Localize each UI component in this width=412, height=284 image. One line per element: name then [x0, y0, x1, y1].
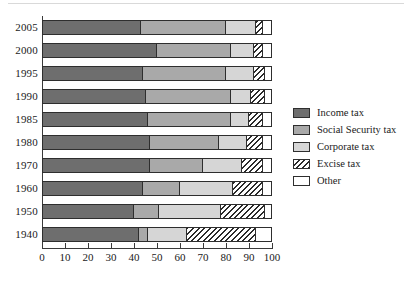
bar-segment-other	[265, 66, 272, 81]
bar-segment-excise-tax	[247, 135, 263, 150]
bar-segment-corporate-tax	[226, 20, 256, 35]
x-axis-tick	[203, 243, 204, 249]
bar-segment-income-tax	[42, 43, 157, 58]
bar-segment-corporate-tax	[231, 89, 252, 104]
bar-row	[42, 181, 272, 196]
bar-segment-other	[263, 135, 272, 150]
bar-segment-social-security-tax	[146, 89, 231, 104]
bar-segment-excise-tax	[256, 20, 263, 35]
bar-segment-income-tax	[42, 158, 150, 173]
bar-segment-income-tax	[42, 181, 143, 196]
bar-segment-other	[263, 43, 272, 58]
y-axis-tick-label: 1985	[2, 114, 38, 125]
bar-segment-income-tax	[42, 66, 143, 81]
bar-segment-excise-tax	[242, 158, 263, 173]
x-axis-tick	[111, 243, 112, 249]
y-axis-tick-label: 1950	[2, 206, 38, 217]
x-axis-tick	[65, 243, 66, 249]
x-axis-tick-label: 0	[39, 251, 45, 264]
y-axis-tick-label: 1960	[2, 183, 38, 194]
x-axis-tick	[226, 243, 227, 249]
bar-segment-corporate-tax	[180, 181, 233, 196]
bar-segment-social-security-tax	[150, 158, 203, 173]
bar-row	[42, 43, 272, 58]
legend-label: Excise tax	[317, 158, 360, 169]
bar-segment-corporate-tax	[219, 135, 247, 150]
chart-legend: Income taxSocial Security taxCorporate t…	[293, 104, 409, 189]
bar-segment-social-security-tax	[148, 112, 231, 127]
legend-label: Corporate tax	[317, 141, 374, 152]
x-axis-ticks	[42, 243, 272, 249]
legend-swatch-excise-tax	[293, 159, 310, 169]
y-axis-tick-label: 2005	[2, 22, 38, 33]
bar-segment-excise-tax	[221, 204, 265, 219]
x-axis-tick-label: 30	[106, 251, 117, 264]
y-axis-tick-labels: 2005200019951990198519801970196019501940	[0, 16, 38, 246]
bar-segment-other	[256, 227, 272, 242]
legend-label: Income tax	[317, 107, 364, 118]
bar-row	[42, 66, 272, 81]
bar-segment-social-security-tax	[157, 43, 231, 58]
bar-segment-social-security-tax	[141, 20, 226, 35]
bar-row	[42, 204, 272, 219]
bar-segment-social-security-tax	[139, 227, 148, 242]
legend-label: Other	[317, 175, 341, 186]
bar-segment-corporate-tax	[159, 204, 221, 219]
bar-segment-corporate-tax	[231, 112, 249, 127]
bar-segment-income-tax	[42, 20, 141, 35]
bar-row	[42, 135, 272, 150]
legend-swatch-income-tax	[293, 108, 310, 118]
bar-segment-excise-tax	[254, 66, 266, 81]
x-axis-tick-label: 70	[198, 251, 209, 264]
bar-segment-corporate-tax	[231, 43, 254, 58]
y-axis-tick-label: 2000	[2, 45, 38, 56]
bar-segment-other	[265, 204, 272, 219]
x-axis-tick	[249, 243, 250, 249]
bar-segment-income-tax	[42, 89, 146, 104]
x-axis-tick-label: 60	[175, 251, 186, 264]
legend-item: Income tax	[293, 104, 409, 121]
legend-swatch-social-security-tax	[293, 125, 310, 135]
bar-segment-excise-tax	[233, 181, 263, 196]
bar-row	[42, 20, 272, 35]
legend-swatch-other	[293, 176, 310, 186]
bar-segment-other	[263, 20, 272, 35]
x-axis-tick-label: 40	[129, 251, 140, 264]
x-axis-tick-label: 20	[83, 251, 94, 264]
x-axis-tick	[157, 243, 158, 249]
legend-label: Social Security tax	[317, 124, 396, 135]
x-axis-tick-label: 100	[264, 251, 281, 264]
bar-segment-corporate-tax	[148, 227, 187, 242]
bar-segment-corporate-tax	[226, 66, 254, 81]
bar-segment-excise-tax	[254, 43, 263, 58]
y-axis-tick-label: 1940	[2, 229, 38, 240]
bar-segment-other	[263, 112, 272, 127]
y-axis-tick-label: 1990	[2, 91, 38, 102]
y-axis-tick-label: 1995	[2, 68, 38, 79]
x-axis-tick	[272, 243, 273, 249]
bar-segment-excise-tax	[251, 89, 265, 104]
bar-segment-social-security-tax	[150, 135, 219, 150]
bar-row	[42, 112, 272, 127]
bar-segment-social-security-tax	[143, 66, 226, 81]
x-axis-tick-label: 10	[60, 251, 71, 264]
x-axis-tick	[88, 243, 89, 249]
bar-row	[42, 227, 272, 242]
x-axis-tick-label: 80	[221, 251, 232, 264]
legend-item: Excise tax	[293, 155, 409, 172]
bar-segment-income-tax	[42, 227, 139, 242]
top-rule-divider	[8, 3, 404, 4]
x-axis-tick-labels: 0102030405060708090100	[42, 251, 272, 267]
legend-swatch-corporate-tax	[293, 142, 310, 152]
bar-segment-other	[265, 89, 272, 104]
plot-area	[42, 16, 272, 246]
bar-segment-social-security-tax	[134, 204, 159, 219]
x-axis-tick	[42, 243, 43, 249]
legend-item: Social Security tax	[293, 121, 409, 138]
legend-item: Other	[293, 172, 409, 189]
x-axis-tick-label: 90	[244, 251, 255, 264]
bar-segment-corporate-tax	[203, 158, 242, 173]
bar-segment-income-tax	[42, 112, 148, 127]
bar-row	[42, 158, 272, 173]
bar-segment-other	[263, 158, 272, 173]
